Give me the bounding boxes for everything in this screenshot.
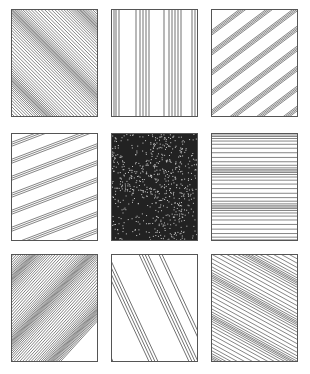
- noise-speck: [171, 184, 172, 185]
- noise-speck: [145, 191, 146, 192]
- noise-speck: [192, 215, 193, 216]
- noise-speck: [156, 182, 157, 183]
- noise-speck: [129, 191, 130, 192]
- pattern-line: [112, 255, 152, 361]
- pattern-line: [12, 134, 97, 165]
- noise-speck: [159, 225, 160, 226]
- noise-speck: [161, 238, 162, 239]
- panel-9: [211, 254, 298, 362]
- noise-speck: [161, 210, 162, 211]
- noise-speck: [174, 217, 175, 218]
- noise-speck: [117, 229, 118, 230]
- noise-speck: [188, 178, 189, 179]
- noise-speck: [174, 207, 175, 208]
- noise-speck: [136, 235, 137, 236]
- noise-speck: [161, 200, 162, 201]
- noise-speck: [156, 166, 157, 167]
- noise-speck: [181, 209, 182, 210]
- noise-speck: [136, 162, 137, 163]
- noise-speck: [157, 181, 158, 182]
- noise-speck: [193, 134, 194, 135]
- noise-speck: [112, 187, 113, 188]
- noise-speck: [182, 236, 183, 237]
- noise-speck: [165, 197, 166, 198]
- noise-speck: [172, 137, 173, 138]
- noise-speck: [122, 185, 123, 186]
- noise-speck: [118, 147, 119, 148]
- noise-speck: [130, 170, 131, 171]
- noise-speck: [185, 187, 186, 188]
- pattern-line: [212, 59, 297, 116]
- noise-speck: [152, 223, 153, 224]
- noise-speck: [164, 228, 165, 229]
- noise-speck: [163, 134, 164, 135]
- noise-speck: [165, 143, 166, 144]
- noise-speck: [169, 159, 170, 160]
- noise-speck: [160, 137, 161, 138]
- noise-speck: [152, 134, 153, 135]
- pattern-line: [212, 280, 297, 339]
- noise-speck: [158, 236, 159, 237]
- noise-speck: [169, 190, 170, 191]
- noise-speck: [151, 193, 152, 194]
- noise-speck: [184, 152, 185, 153]
- noise-speck: [136, 187, 137, 188]
- noise-speck: [136, 152, 137, 153]
- noise-speck: [189, 161, 190, 162]
- noise-speck: [159, 200, 160, 201]
- noise-speck: [118, 200, 119, 201]
- noise-speck: [193, 139, 194, 140]
- pattern-line: [212, 291, 297, 350]
- noise-speck: [147, 205, 148, 206]
- noise-speck: [187, 189, 188, 190]
- noise-speck: [143, 190, 144, 191]
- noise-speck: [184, 188, 185, 189]
- noise-speck: [117, 162, 118, 163]
- noise-speck: [161, 147, 162, 148]
- noise-speck: [122, 182, 123, 183]
- noise-speck: [163, 225, 164, 226]
- noise-speck: [191, 209, 192, 210]
- noise-speck: [178, 204, 179, 205]
- noise-speck: [157, 198, 158, 199]
- noise-speck: [150, 206, 151, 207]
- noise-speck: [112, 154, 113, 155]
- noise-speck: [179, 218, 180, 219]
- noise-speck: [172, 237, 173, 238]
- noise-speck: [174, 203, 175, 204]
- noise-speck: [177, 214, 178, 215]
- noise-speck: [155, 196, 156, 197]
- noise-speck: [162, 155, 163, 156]
- noise-speck: [170, 192, 171, 193]
- noise-speck: [167, 200, 168, 201]
- noise-speck: [187, 186, 188, 187]
- noise-speck: [123, 164, 124, 165]
- noise-speck: [164, 236, 165, 237]
- noise-speck: [179, 198, 180, 199]
- noise-speck: [122, 166, 123, 167]
- noise-speck: [171, 162, 172, 163]
- noise-speck: [136, 151, 137, 152]
- noise-speck: [167, 144, 168, 145]
- noise-speck: [150, 175, 151, 176]
- noise-speck: [154, 146, 155, 147]
- noise-speck: [113, 155, 114, 156]
- noise-speck: [192, 238, 193, 239]
- noise-speck: [190, 194, 191, 195]
- noise-speck: [182, 155, 183, 156]
- noise-speck: [182, 185, 183, 186]
- noise-speck: [164, 139, 165, 140]
- noise-speck: [162, 157, 163, 158]
- noise-speck: [161, 154, 162, 155]
- noise-speck: [191, 179, 192, 180]
- noise-speck: [168, 239, 169, 240]
- noise-speck: [151, 177, 152, 178]
- noise-speck: [123, 209, 124, 210]
- noise-speck: [120, 190, 121, 191]
- noise-speck: [164, 178, 165, 179]
- noise-speck: [113, 216, 114, 217]
- noise-speck: [182, 144, 183, 145]
- noise-speck: [183, 196, 184, 197]
- noise-speck: [188, 164, 189, 165]
- noise-speck: [126, 233, 127, 234]
